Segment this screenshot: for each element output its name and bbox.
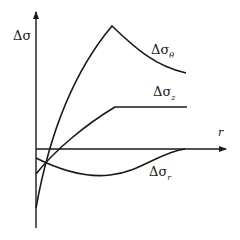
- label-delta-sigma-z: Δσz: [153, 84, 176, 102]
- stress-diagram: Δσ r Δσθ Δσz Δσr: [0, 0, 240, 240]
- r-axis-label: r: [218, 126, 224, 139]
- label-delta-sigma-r: Δσr: [149, 164, 172, 182]
- label-delta-sigma-theta: Δσθ: [151, 42, 174, 60]
- y-axis-label: Δσ: [13, 28, 31, 43]
